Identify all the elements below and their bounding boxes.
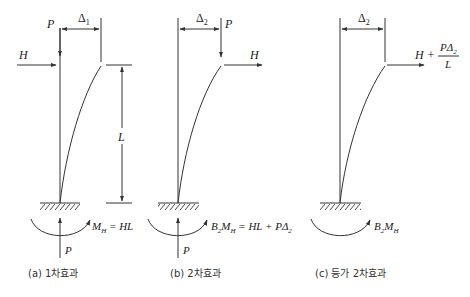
equivalent-load-label: H + — [414, 48, 435, 62]
panel-b-second-order-effect: Δ2 P H B2MH = HL + PΔ2 P (b) 2차효과 — [148, 11, 292, 279]
panel-a-first-order-effect: Δ1 P H L MH = HL P (a) 1차효과 — [17, 11, 133, 279]
base-moment-label: B2MH = HL + PΔ2 — [211, 220, 292, 235]
panel-b-caption: (b) 2차효과 — [170, 268, 221, 279]
displacement-label: Δ2 — [196, 11, 208, 27]
displacement-label: Δ2 — [358, 11, 370, 27]
panel-a-caption: (a) 1차효과 — [28, 268, 78, 279]
displacement-label: Δ1 — [78, 11, 90, 27]
panel-c-caption: (c) 등가 2차효과 — [315, 268, 386, 279]
column-deflected-shape — [60, 66, 101, 203]
base-reaction-label: P — [182, 244, 190, 256]
fixed-support-hatch — [40, 204, 80, 210]
panel-c-equivalent-second-order-effect: Δ2 H + PΔ2 L B2MH (c) 등가 2차효과 — [311, 11, 459, 279]
vertical-load-label: P — [46, 17, 55, 31]
column-effects-diagram: Δ1 P H L MH = HL P (a) 1차효과 Δ2 P H — [0, 0, 470, 297]
equivalent-load-fraction-denominator: L — [444, 58, 451, 70]
base-moment-label: B2MH — [374, 220, 399, 235]
column-deflected-shape — [340, 66, 385, 203]
base-moment-label: MH = HL — [91, 220, 133, 235]
equivalent-load-fraction-numerator: PΔ2 — [439, 41, 457, 56]
fixed-support-hatch — [320, 204, 361, 210]
column-deflected-shape — [178, 66, 221, 203]
horizontal-load-label: H — [249, 48, 260, 62]
base-moment-arrow — [311, 219, 370, 236]
height-label: L — [117, 130, 125, 144]
fixed-support-hatch — [158, 204, 199, 210]
base-reaction-label: P — [64, 244, 72, 256]
horizontal-load-label: H — [18, 48, 29, 62]
vertical-load-label: P — [224, 17, 233, 31]
